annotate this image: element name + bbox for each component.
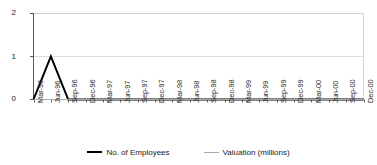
x-tick-label: Mar-00 bbox=[315, 80, 323, 103]
x-tick-label: Sep-96 bbox=[71, 79, 79, 103]
legend-entry-valuation: Valuation (millions) bbox=[204, 148, 290, 157]
x-tick-label: Sep-99 bbox=[280, 79, 288, 103]
x-tick-label: Mar-99 bbox=[245, 80, 253, 103]
legend-label-valuation: Valuation (millions) bbox=[223, 148, 290, 157]
x-tick-label: Jun-00 bbox=[332, 81, 340, 103]
legend-label-employees: No. of Employees bbox=[106, 148, 169, 157]
x-tick-label: Dec-99 bbox=[297, 79, 305, 103]
x-tick-label: Dec-97 bbox=[158, 79, 166, 103]
x-tick-label: Sep-97 bbox=[141, 79, 149, 103]
x-tick-label: Jun-97 bbox=[124, 81, 132, 103]
x-tick-label: Dec-96 bbox=[89, 79, 97, 103]
x-tick-label: Jun-98 bbox=[193, 81, 201, 103]
legend-line-marker-icon bbox=[204, 152, 219, 153]
chart-legend: No. of Employees Valuation (millions) bbox=[0, 144, 377, 160]
x-tick-label: Dec-00 bbox=[367, 79, 375, 103]
x-tick-label: Mar-97 bbox=[106, 80, 114, 103]
x-tick-label: Mar-98 bbox=[176, 80, 184, 103]
y-axis-ticks bbox=[30, 14, 34, 100]
x-tick-label: Mar-96 bbox=[37, 80, 45, 103]
x-tick-label: Dec-98 bbox=[228, 79, 236, 103]
x-tick-label: Sep-00 bbox=[349, 79, 357, 103]
x-tick-label: Jun-99 bbox=[262, 81, 270, 103]
x-tick-label: Sep-98 bbox=[210, 79, 218, 103]
legend-line-marker-icon bbox=[87, 151, 102, 153]
gridlines bbox=[33, 14, 364, 57]
legend-entry-employees: No. of Employees bbox=[87, 148, 169, 157]
line-chart: 2 1 0 Mar-96Jun-96Sep-96Dec-96Mar-97Jun-… bbox=[0, 0, 377, 165]
x-tick-label: Jun-96 bbox=[54, 81, 62, 103]
